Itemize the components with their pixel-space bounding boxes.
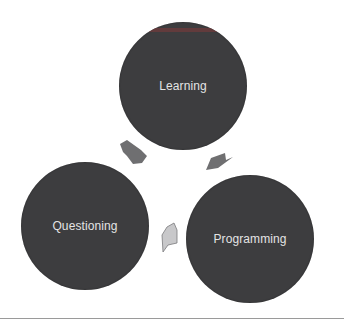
arrow-programming-to-questioning-icon [162,223,177,252]
cycle-diagram: Learning Programming Questioning [0,0,347,325]
bottom-divider [0,318,344,319]
node-label-learning: Learning [159,79,207,93]
cycle-arrows [0,0,347,325]
arrow-questioning-to-learning-icon [120,140,147,164]
arrow-learning-to-programming-icon [206,153,233,170]
